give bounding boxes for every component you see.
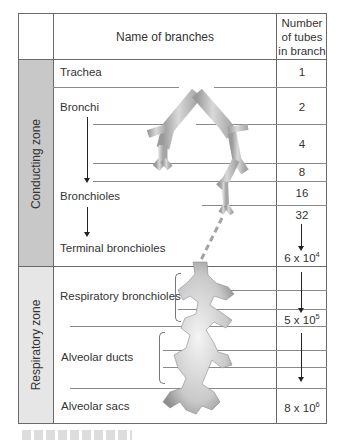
respiratory-airways [163,262,234,414]
cut-off-caption [22,430,132,440]
conducting-airways [148,60,248,214]
dashed-connector [200,218,222,262]
